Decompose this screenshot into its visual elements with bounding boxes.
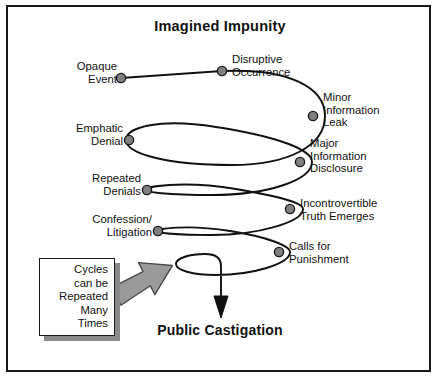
stage-label-calls-for-punishment: Calls for Punishment <box>289 240 373 265</box>
stage-dot-confession-litigation <box>153 226 162 235</box>
stage-label-opaque-event: Opaque Event <box>68 60 117 85</box>
stage-label-minor-information-leak: Minor Information Leak <box>323 91 409 129</box>
stage-dot-disruptive-occurrence <box>217 66 226 75</box>
stage-label-disruptive-occurrence: Disruptive Occurrence <box>232 53 318 78</box>
stage-dot-repeated-denials <box>142 185 151 194</box>
outcome-label: Public Castigation <box>0 322 440 338</box>
stage-label-emphatic-denial: Emphatic Denial <box>62 122 123 147</box>
stage-dot-opaque-event <box>116 73 125 82</box>
stage-label-repeated-denials: Repeated Denials <box>77 172 141 197</box>
stage-dot-major-information-disclosure <box>295 157 304 166</box>
stage-label-confession-litigation: Confession/ Litigation <box>81 213 152 238</box>
down-arrowhead-icon <box>214 296 228 318</box>
stage-dot-emphatic-denial <box>124 135 133 144</box>
stage-label-major-information-disclosure: Major Information Disclosure <box>310 137 398 175</box>
stage-label-incontrovertible-truth-emerges: Incontrovertible Truth Emerges <box>300 197 404 222</box>
stage-dot-minor-information-leak <box>308 111 317 120</box>
stage-dot-incontrovertible-truth-emerges <box>285 204 294 213</box>
diagram-canvas: Imagined Impunity Opaque Event Disruptiv… <box>0 0 440 382</box>
stage-dot-calls-for-punishment <box>274 247 283 256</box>
